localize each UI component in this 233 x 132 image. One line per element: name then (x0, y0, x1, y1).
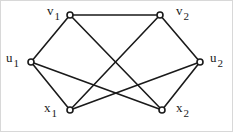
node-label-base-x2: x (176, 100, 183, 115)
graph-node-u1[interactable] (28, 59, 34, 65)
node-label-u2: u2 (210, 51, 222, 64)
node-label-subscript-v1: 1 (55, 10, 61, 22)
graph-node-x1[interactable] (67, 107, 73, 113)
node-label-base-u2: u (210, 50, 217, 65)
edge-layer (31, 15, 200, 110)
graph-node-v1[interactable] (67, 12, 73, 18)
node-label-u1: u1 (6, 51, 18, 64)
node-label-base-u1: u (6, 50, 13, 65)
graph-edge-v2-u2 (160, 15, 200, 62)
node-label-subscript-v2: 2 (184, 10, 190, 22)
graph-figure: v1v2u1u2x1x2 (0, 0, 233, 132)
node-label-v2: v2 (176, 4, 188, 17)
graph-edge-v1-u1 (31, 15, 70, 62)
node-label-base-v1: v (47, 3, 54, 18)
node-label-subscript-u2: 2 (218, 57, 224, 69)
node-label-base-v2: v (176, 3, 183, 18)
graph-node-v2[interactable] (157, 12, 163, 18)
node-label-x2: x2 (176, 101, 188, 114)
node-label-subscript-u1: 1 (14, 57, 20, 69)
node-label-v1: v1 (47, 4, 59, 17)
graph-canvas (0, 0, 233, 132)
node-label-subscript-x1: 1 (52, 107, 58, 119)
graph-node-x2[interactable] (159, 107, 165, 113)
graph-node-u2[interactable] (197, 59, 203, 65)
node-label-subscript-x2: 2 (184, 107, 190, 119)
node-label-x1: x1 (44, 101, 56, 114)
node-label-base-x1: x (44, 100, 51, 115)
